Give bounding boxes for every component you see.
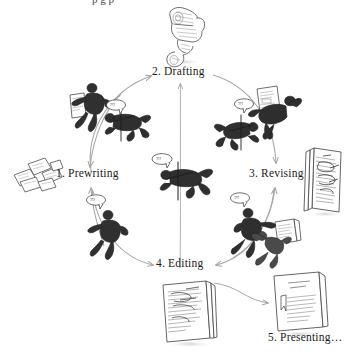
writing-process-cycle-diagram: p g p xyxy=(0,0,358,356)
stage-label-prewriting[interactable]: 1. Prewriting xyxy=(56,168,119,180)
stage-label-drafting[interactable]: 2. Drafting xyxy=(152,66,205,78)
stage-label-editing[interactable]: 4. Editing xyxy=(156,258,203,270)
stage-label-presenting[interactable]: 5. Presenting… xyxy=(268,332,342,344)
stage-label-revising[interactable]: 3. Revising xyxy=(249,168,304,180)
figure-presenting xyxy=(0,0,358,356)
